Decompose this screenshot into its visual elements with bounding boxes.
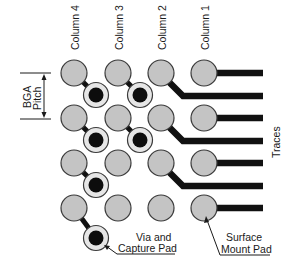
via: [84, 226, 109, 251]
pad-label-line1: Surface: [226, 231, 262, 243]
column-labels: Column 4 Column 3 Column 2 Column 1: [69, 5, 211, 50]
via: [128, 128, 153, 153]
bga-pitch-label-line2: Pitch: [31, 86, 43, 110]
via: [84, 173, 109, 198]
bga-escape-routing-diagram: Column 4 Column 3 Column 2 Column 1 BGA …: [0, 0, 293, 266]
column-3-label: Column 3: [113, 5, 125, 50]
via: [84, 83, 109, 108]
column-1-label: Column 1: [199, 5, 211, 50]
column-4-label: Column 4: [69, 5, 81, 50]
traces: [160, 73, 263, 208]
traces-label: Traces: [270, 126, 282, 158]
pad-label-line2: Mount Pad: [221, 243, 272, 255]
via-label-line2: Capture Pad: [118, 242, 177, 254]
via: [84, 128, 109, 153]
via: [128, 83, 153, 108]
column-2-label: Column 2: [156, 5, 168, 50]
